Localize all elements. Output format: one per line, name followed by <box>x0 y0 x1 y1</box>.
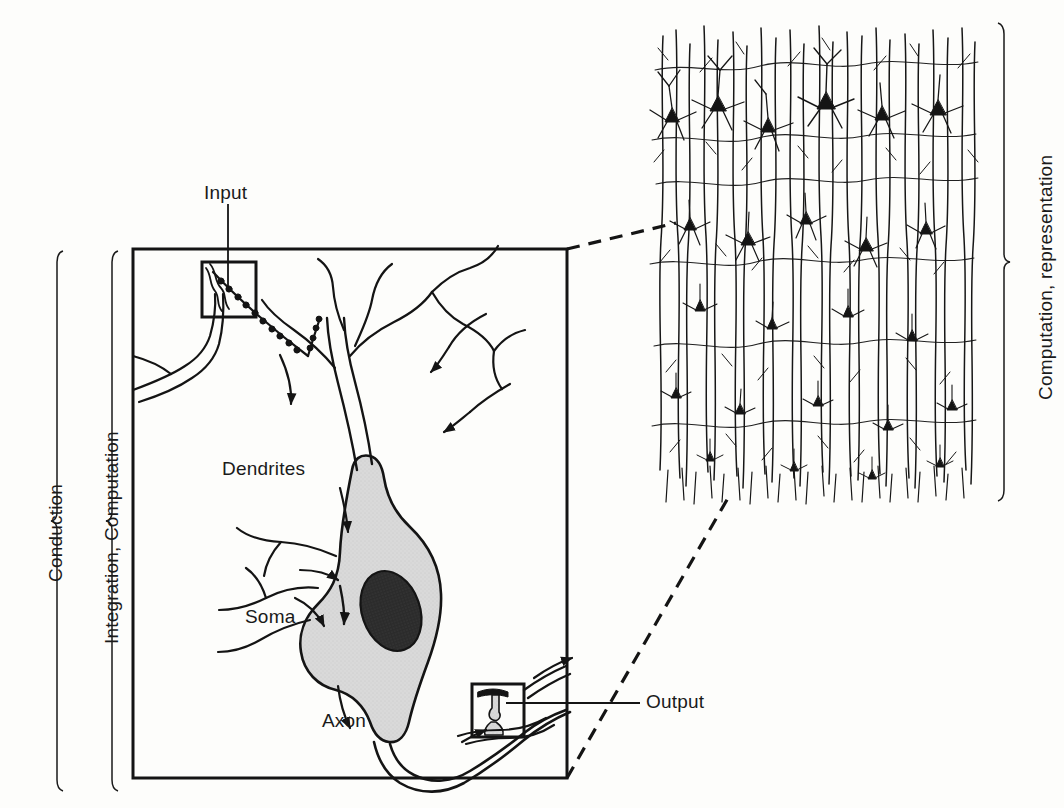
figure-canvas: Conduction Integration, Computation Comp… <box>0 0 1064 808</box>
part-label-dendrites: Dendrites <box>222 459 305 478</box>
bracket-label-computation-representation: Computation, representation <box>1036 155 1055 400</box>
part-label-soma: Soma <box>245 607 295 626</box>
callout-label-input: Input <box>204 183 247 202</box>
bracket-label-conduction: Conduction <box>46 484 65 582</box>
cortex-inset-drawing <box>650 26 978 504</box>
bracket-computation-representation <box>998 23 1010 501</box>
callout-label-output: Output <box>646 692 704 711</box>
part-label-axon: Axon <box>322 711 366 730</box>
bracket-label-integration-computation: Integration, Computation <box>102 431 121 644</box>
diagram-artwork <box>0 0 1064 808</box>
